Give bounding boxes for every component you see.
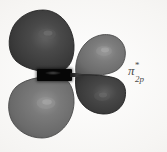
orbital-lobe-upper-left bbox=[7, 9, 75, 73]
orbital-lobe-lower-left bbox=[7, 77, 75, 139]
orbital-label-subscript: 2p bbox=[135, 74, 144, 84]
internuclear-axis-bar bbox=[37, 69, 72, 81]
bar-specular-highlight bbox=[45, 71, 61, 75]
orbital-label-superscript: * bbox=[135, 60, 140, 70]
orbital-lobe-upper-right bbox=[74, 34, 127, 75]
orbital-figure: π*2p bbox=[0, 0, 167, 152]
internuclear-axis-bridge bbox=[70, 73, 82, 77]
orbital-label-symbol: π bbox=[128, 63, 135, 78]
orbital-lobe-lower-right bbox=[74, 75, 127, 115]
orbital-label: π*2p bbox=[128, 62, 166, 90]
